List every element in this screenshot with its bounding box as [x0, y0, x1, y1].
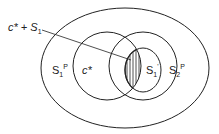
s2p-circle — [109, 32, 177, 100]
label-c-star-plus-s1: c* + S1 — [8, 21, 42, 35]
leader-line — [42, 30, 131, 60]
label-s1p: S1P — [52, 63, 68, 78]
label-s1-prime: S1' — [146, 63, 159, 78]
venn-diagram: c* + S1 S1P c* S1' S2P — [0, 0, 219, 134]
label-c-star: c* — [82, 64, 93, 76]
